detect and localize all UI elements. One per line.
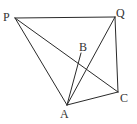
segment-AC — [67, 92, 118, 105]
point-label-Q: Q — [116, 6, 125, 20]
edges-group — [15, 17, 118, 105]
point-label-B: B — [79, 40, 87, 54]
point-label-C: C — [120, 91, 128, 105]
segment-PQ — [15, 17, 115, 18]
geometry-diagram: PQBCA — [0, 0, 137, 124]
segment-PC — [15, 18, 118, 92]
point-label-P: P — [3, 10, 10, 24]
segment-PA — [15, 18, 67, 105]
point-label-A: A — [60, 107, 69, 121]
segment-QC — [115, 17, 118, 92]
